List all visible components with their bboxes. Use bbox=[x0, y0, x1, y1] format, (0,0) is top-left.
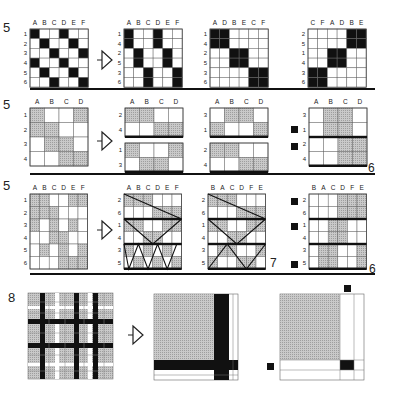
row-label: 4 bbox=[112, 232, 121, 245]
grid-svg bbox=[308, 29, 366, 87]
column-labels: ABCDEF bbox=[124, 184, 182, 191]
row-label: 6 bbox=[296, 77, 305, 87]
row-labels: 261435 bbox=[297, 194, 306, 269]
column-label: E bbox=[163, 19, 173, 26]
column-label: D bbox=[59, 19, 69, 26]
row-label: 4 bbox=[297, 152, 306, 167]
grid-svg bbox=[309, 194, 367, 269]
row-label: 3 bbox=[18, 137, 27, 152]
row-label: 2 bbox=[112, 194, 121, 207]
column-label: A bbox=[218, 184, 228, 191]
section-3-number: 5 bbox=[3, 178, 10, 193]
row-label: 1 bbox=[297, 219, 306, 232]
column-label: B bbox=[347, 19, 357, 26]
column-label: E bbox=[69, 19, 79, 26]
column-label: D bbox=[220, 19, 230, 26]
column-label: E bbox=[356, 19, 366, 26]
reduced-block-figure bbox=[154, 294, 238, 380]
row-labels: 123456 bbox=[18, 29, 27, 87]
row-label: 1 bbox=[198, 123, 207, 138]
section-2-number: 5 bbox=[3, 97, 10, 112]
row-label: 3 bbox=[18, 48, 27, 58]
row-label: 5 bbox=[18, 244, 27, 257]
column-label: D bbox=[237, 184, 247, 191]
column-label: A bbox=[319, 184, 329, 191]
row-label: 1 bbox=[112, 219, 121, 232]
column-labels: ABCD bbox=[210, 98, 268, 105]
column-labels: CFADBE bbox=[308, 19, 366, 26]
row-label: 1 bbox=[18, 108, 27, 123]
row-labels: 123456 bbox=[18, 194, 27, 269]
row-label: 1 bbox=[296, 48, 305, 58]
row-label: 6 bbox=[18, 257, 27, 270]
row-label: 1 bbox=[18, 194, 27, 207]
row-label: 4 bbox=[196, 232, 205, 245]
row-label: 5 bbox=[196, 257, 205, 270]
section-4-number: 8 bbox=[8, 290, 15, 305]
reduced-block-marked-figure bbox=[280, 294, 364, 380]
row-label: 5 bbox=[112, 257, 121, 270]
row-label: 6 bbox=[18, 77, 27, 87]
column-label: D bbox=[74, 98, 89, 105]
row-label: 6 bbox=[112, 207, 121, 220]
column-label: B bbox=[45, 98, 60, 105]
column-label: B bbox=[134, 19, 144, 26]
column-labels: ABCDEF bbox=[124, 19, 182, 26]
grid-svg bbox=[124, 194, 182, 269]
grid-svg bbox=[125, 108, 183, 137]
row-label: 1 bbox=[112, 29, 121, 39]
arrow-icon bbox=[96, 130, 114, 152]
row-label: 4 bbox=[198, 39, 207, 49]
grid-svg bbox=[30, 108, 88, 166]
column-label: D bbox=[169, 98, 184, 105]
row-label: 4 bbox=[112, 39, 121, 49]
marker-square bbox=[267, 363, 274, 370]
section-1-baseline bbox=[30, 88, 375, 90]
column-label: A bbox=[210, 98, 225, 105]
row-label: 2 bbox=[113, 108, 122, 123]
row-labels: 261435 bbox=[112, 194, 121, 269]
column-label: F bbox=[172, 19, 182, 26]
column-label: A bbox=[327, 19, 337, 26]
column-label: E bbox=[239, 19, 249, 26]
row-label: 3 bbox=[297, 108, 306, 123]
column-label: D bbox=[338, 184, 348, 191]
row-labels: 3124 bbox=[297, 108, 306, 166]
column-label: B bbox=[229, 19, 239, 26]
row-label: 4 bbox=[296, 58, 305, 68]
column-label: F bbox=[172, 184, 182, 191]
marker-square bbox=[344, 285, 351, 292]
column-label: F bbox=[246, 184, 256, 191]
column-label: C bbox=[328, 184, 338, 191]
row-label: 1 bbox=[113, 143, 122, 158]
row-label: 3 bbox=[198, 68, 207, 78]
column-label: F bbox=[258, 19, 268, 26]
row-label: 5 bbox=[198, 58, 207, 68]
section-3-baseline bbox=[30, 273, 375, 275]
row-labels: 13 bbox=[113, 143, 122, 172]
row-label: 4 bbox=[18, 232, 27, 245]
column-label: D bbox=[153, 19, 163, 26]
row-label: 2 bbox=[296, 29, 305, 39]
row-label: 1 bbox=[196, 219, 205, 232]
column-label: B bbox=[140, 98, 155, 105]
column-label: E bbox=[256, 184, 266, 191]
row-label: 2 bbox=[18, 207, 27, 220]
column-label: B bbox=[40, 184, 50, 191]
column-label: C bbox=[239, 98, 254, 105]
section-3-side-number-7: 7 bbox=[270, 256, 277, 270]
column-label: A bbox=[30, 19, 40, 26]
row-label: 2 bbox=[198, 48, 207, 58]
row-labels: 1234 bbox=[18, 108, 27, 166]
column-label: B bbox=[134, 184, 144, 191]
row-label: 3 bbox=[18, 219, 27, 232]
column-labels: BACDFE bbox=[208, 184, 266, 191]
row-label: 1 bbox=[198, 29, 207, 39]
row-labels: 251436 bbox=[296, 29, 305, 87]
column-label: D bbox=[353, 98, 368, 105]
section-2-baseline bbox=[30, 173, 375, 175]
grid-svg bbox=[309, 108, 367, 166]
row-label: 2 bbox=[198, 143, 207, 158]
column-label: C bbox=[227, 184, 237, 191]
row-label: 2 bbox=[297, 137, 306, 152]
